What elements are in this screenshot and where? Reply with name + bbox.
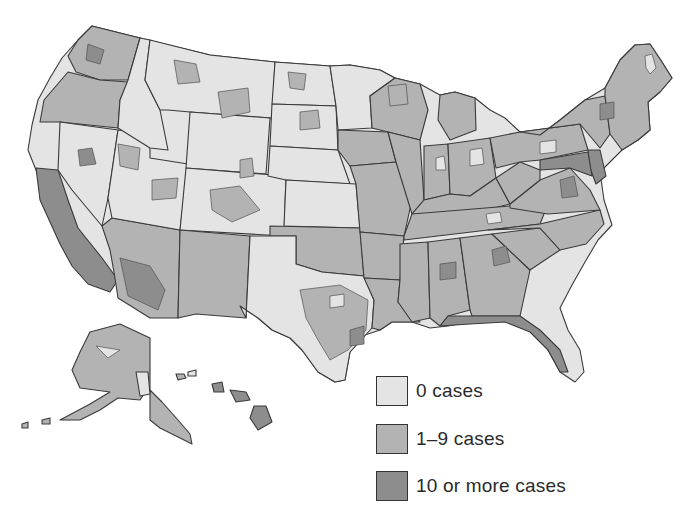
legend-item-high: 10 or more cases (376, 469, 566, 502)
state-nebraska (268, 146, 350, 184)
state-washington (68, 26, 140, 80)
state-montana (145, 40, 275, 118)
legend-label: 1–9 cases (416, 428, 504, 450)
state-alaska (60, 324, 192, 444)
legend: 0 cases 1–9 cases 10 or more cases (376, 374, 676, 504)
legend-label: 10 or more cases (416, 475, 566, 497)
state-indiana (424, 144, 450, 200)
hawaii-inset (176, 370, 272, 430)
legend-item-zero: 0 cases (376, 374, 483, 407)
state-new-mexico (178, 230, 250, 318)
legend-item-low: 1–9 cases (376, 422, 504, 455)
alaska-inset (22, 324, 192, 444)
state-arkansas (360, 232, 404, 280)
state-iowa (338, 130, 396, 166)
legend-swatch-zero (376, 376, 408, 406)
state-new-england (605, 44, 672, 150)
legend-swatch-high (376, 471, 408, 501)
legend-label: 0 cases (416, 380, 483, 402)
state-kansas (284, 180, 360, 228)
legend-swatch-low (376, 424, 408, 454)
state-wyoming (186, 112, 270, 174)
